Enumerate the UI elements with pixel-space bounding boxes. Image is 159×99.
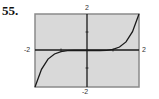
y-min-label: -2	[82, 88, 88, 95]
graph: 2 -2 -2 2	[0, 0, 159, 99]
y-max-label: 2	[85, 4, 89, 11]
x-max-label: 2	[142, 46, 146, 53]
x-min-label: -2	[24, 46, 30, 53]
